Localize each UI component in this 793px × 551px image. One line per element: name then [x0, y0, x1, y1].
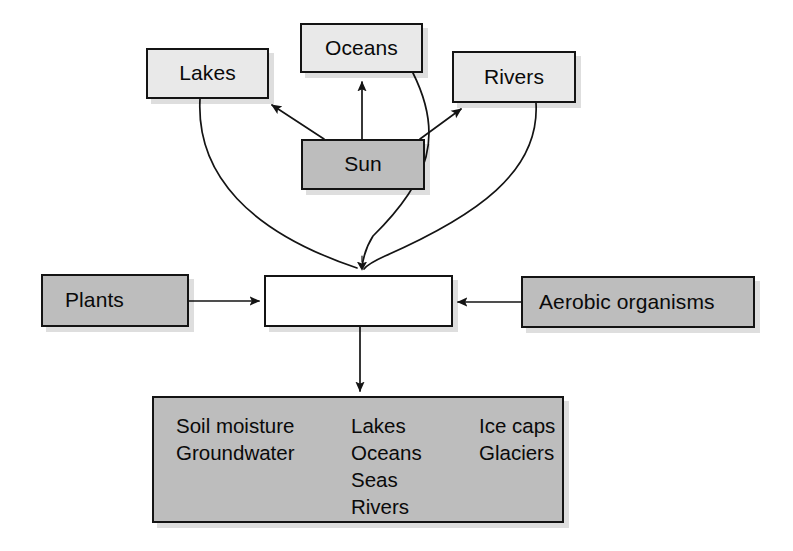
storage-column-2: Lakes Oceans Seas Rivers	[351, 412, 479, 520]
edge-sun-to-rivers	[420, 109, 461, 139]
node-aerobic-organisms-label: Aerobic organisms	[539, 290, 715, 315]
storage-item: Rivers	[351, 493, 479, 520]
node-lakes[interactable]: Lakes	[146, 48, 269, 99]
storage-item: Groundwater	[176, 439, 351, 466]
node-sun-label: Sun	[344, 152, 382, 177]
node-rivers[interactable]: Rivers	[452, 51, 576, 103]
node-reservoir-empty[interactable]	[264, 275, 453, 327]
node-lakes-label: Lakes	[179, 61, 236, 86]
storage-item: Soil moisture	[176, 412, 351, 439]
node-rivers-label: Rivers	[484, 65, 544, 90]
node-plants-label: Plants	[65, 288, 124, 313]
node-aerobic-organisms[interactable]: Aerobic organisms	[521, 276, 755, 328]
node-oceans-label: Oceans	[325, 36, 398, 61]
node-oceans[interactable]: Oceans	[300, 23, 423, 73]
storage-item: Ice caps	[479, 412, 555, 439]
storage-item: Lakes	[351, 412, 479, 439]
edge-sun-to-lakes	[272, 105, 324, 139]
storage-item: Glaciers	[479, 439, 555, 466]
storage-column-1: Soil moisture Groundwater	[176, 412, 351, 466]
node-water-storage[interactable]: Soil moisture Groundwater Lakes Oceans S…	[152, 396, 564, 523]
node-sun[interactable]: Sun	[301, 139, 425, 190]
storage-columns: Soil moisture Groundwater Lakes Oceans S…	[176, 412, 555, 520]
storage-column-3: Ice caps Glaciers	[479, 412, 555, 466]
storage-item: Oceans	[351, 439, 479, 466]
node-plants[interactable]: Plants	[41, 274, 189, 327]
storage-item: Seas	[351, 466, 479, 493]
diagram-canvas: Oceans Lakes Rivers Sun Plants Aerobic o…	[0, 0, 793, 551]
